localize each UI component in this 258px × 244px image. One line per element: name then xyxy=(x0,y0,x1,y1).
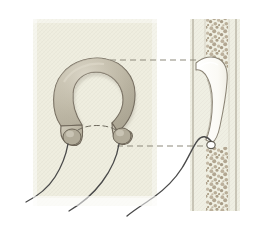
trabecular-bone-lower xyxy=(206,147,228,211)
frontal-view-panel xyxy=(33,19,157,206)
panel-fade xyxy=(33,196,157,206)
figure-root: Surgical suture anchor illustration U-sh… xyxy=(0,0,258,244)
illustration-canvas xyxy=(0,0,258,244)
